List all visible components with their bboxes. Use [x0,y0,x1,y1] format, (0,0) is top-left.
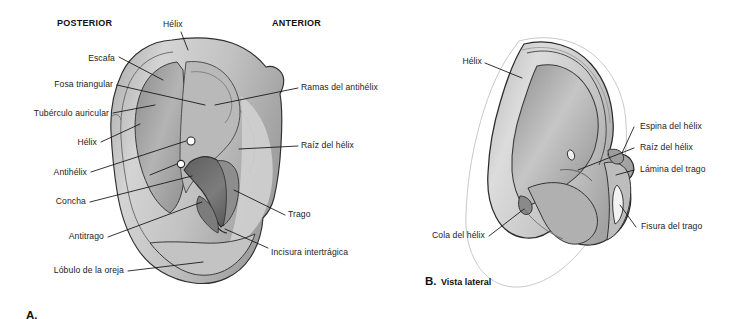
label-escafa: Escafa [0,54,115,63]
label-antitrago-a: Antitrago [0,232,104,241]
panel-a-artwork [90,32,298,284]
panel-b-caption-text: Vista lateral [441,277,491,287]
panel-a-caption-letter: A. [26,309,38,319]
orientation-label-posterior: POSTERIOR [57,19,112,28]
label-helix-left-a: Hélix [0,138,97,147]
orientation-label-anterior: ANTERIOR [272,19,321,28]
label-antihelix-a: Antihélix [0,168,87,177]
label-ramas-antihelix: Ramas del antihélix [301,83,378,92]
label-trago-a: Trago [288,210,311,219]
label-helix-b: Hélix [400,57,482,66]
label-fosa-triangular: Fosa triangular [0,80,113,89]
pin-ring-lower-a [177,160,184,167]
panel-b-caption: B. Vista lateral [425,272,491,288]
panel-b-caption-letter: B. [425,275,437,287]
label-helix-top-a: Hélix [163,20,183,29]
label-incisura-intertragica: Incisura intertrágica [271,248,348,257]
panel-a-caption: A. [26,306,38,319]
label-lobulo-oreja: Lóbulo de la oreja [0,266,124,275]
label-lamina-trago: Lámina del trago [640,165,706,174]
label-espina-helix: Espina del hélix [640,122,702,131]
label-fisura-trago: Fisura del trago [641,222,702,231]
label-concha-a: Concha [0,197,86,206]
pin-ring-upper-a [187,137,195,145]
label-raiz-helix-a: Raíz del hélix [301,141,354,150]
label-cola-helix: Cola del hélix [395,231,485,240]
label-tuberculo-auricular: Tubérculo auricular [0,109,109,118]
label-raiz-helix-b: Raíz del hélix [640,143,693,152]
panel-b-artwork [466,38,636,287]
ear-anatomy-figure: POSTERIOR ANTERIOR Hélix Escafa Fosa tri… [0,0,736,319]
